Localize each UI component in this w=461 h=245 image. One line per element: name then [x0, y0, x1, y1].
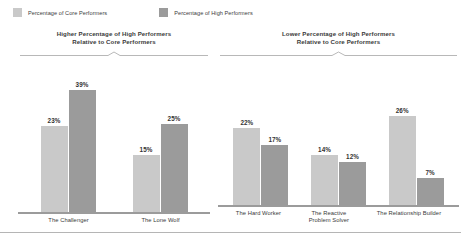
plot-area-left: 23% 39% 15% 25%: [16, 57, 212, 213]
legend-label-core-performers: Percentage of Core Performers: [28, 10, 107, 16]
bar-hardworker-core: [233, 128, 260, 205]
bar-value-challenger-high: 39%: [76, 81, 89, 88]
bar-value-hardworker-core: 22%: [240, 119, 253, 126]
legend-swatch-high-icon: [159, 8, 168, 17]
bar-challenger-core: [41, 126, 68, 212]
bar-wrap-lonewolf-core: 15%: [133, 57, 160, 213]
bar-value-lonewolf-high: 25%: [168, 115, 181, 122]
bar-lonewolf-high: [161, 124, 188, 212]
category-label-the-lone-wolf: The Lone Wolf: [141, 217, 179, 225]
bar-relationship-core: [389, 116, 416, 205]
bar-relationship-high: [417, 178, 444, 205]
bar-wrap-lonewolf-high: 25%: [161, 57, 188, 213]
bar-wrap-reactive-high: 12%: [339, 57, 366, 205]
category-label-the-relationship-builder: The Relationship Builder: [377, 210, 441, 225]
bar-wrap-challenger-core: 23%: [41, 57, 68, 213]
bar-wrap-relationship-high: 7%: [417, 57, 444, 205]
bar-group-the-hard-worker: 22% 17%: [233, 57, 288, 205]
bar-wrap-relationship-core: 26%: [389, 57, 416, 205]
legend-item-high-performers: Percentage of High Performers: [159, 8, 253, 17]
footer-divider: [0, 232, 461, 233]
legend-label-high-performers: Percentage of High Performers: [174, 10, 253, 16]
panel-title-right: Lower Percentage of High Performers Rela…: [216, 30, 461, 47]
category-label-the-challenger: The Challenger: [48, 217, 88, 225]
bar-reactive-high: [339, 162, 366, 205]
bar-value-relationship-core: 26%: [396, 107, 409, 114]
bar-value-challenger-core: 23%: [48, 117, 61, 124]
category-labels-left: The Challenger The Lone Wolf: [16, 217, 212, 225]
bar-hardworker-high: [261, 145, 288, 205]
bar-value-lonewolf-core: 15%: [140, 146, 153, 153]
bar-wrap-hardworker-high: 17%: [261, 57, 288, 205]
category-labels-right: The Hard Worker The Reactive Problem Sol…: [216, 210, 461, 225]
chart-legend: Percentage of Core Performers Percentage…: [13, 8, 253, 17]
bar-group-the-lone-wolf: 15% 25%: [133, 57, 188, 213]
bar-group-the-challenger: 23% 39%: [41, 57, 96, 213]
chart-panels: Higher Percentage of High Performers Rel…: [0, 30, 461, 225]
bar-value-reactive-high: 12%: [346, 153, 359, 160]
legend-swatch-core-icon: [13, 8, 22, 17]
bar-wrap-hardworker-core: 22%: [233, 57, 260, 205]
bar-value-reactive-core: 14%: [318, 146, 331, 153]
bar-group-the-relationship-builder: 26% 7%: [389, 57, 444, 205]
axis-baseline-left: [18, 212, 210, 214]
panel-title-left: Higher Percentage of High Performers Rel…: [16, 30, 212, 47]
bar-challenger-high: [69, 90, 96, 212]
panel-lower-percentage: Lower Percentage of High Performers Rela…: [216, 30, 461, 225]
bar-wrap-reactive-core: 14%: [311, 57, 338, 205]
bar-group-the-reactive-problem-solver: 14% 12%: [311, 57, 366, 205]
legend-item-core-performers: Percentage of Core Performers: [13, 8, 107, 17]
plot-area-right: 22% 17% 14% 12%: [216, 57, 461, 205]
bar-value-hardworker-high: 17%: [268, 136, 281, 143]
panel-higher-percentage: Higher Percentage of High Performers Rel…: [16, 30, 212, 225]
category-label-the-reactive-problem-solver: The Reactive Problem Solver: [309, 210, 349, 225]
bar-lonewolf-core: [133, 155, 160, 212]
bar-value-relationship-high: 7%: [425, 169, 434, 176]
axis-baseline-right: [218, 205, 459, 207]
bar-wrap-challenger-high: 39%: [69, 57, 96, 213]
bar-reactive-core: [311, 155, 338, 205]
category-label-the-hard-worker: The Hard Worker: [236, 210, 281, 225]
